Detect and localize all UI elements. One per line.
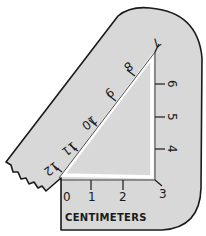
- ruler-triangle-diagram: 0 1 2 3 4 5 6 7 8 9 10 11 12 CENTIMETERS: [0, 0, 206, 236]
- tick-label-3: 3: [159, 187, 167, 201]
- tick-label-0: 0: [63, 190, 71, 204]
- tick-label-1: 1: [88, 190, 96, 204]
- units-caption: CENTIMETERS: [65, 212, 147, 223]
- tick-label-4: 4: [165, 145, 179, 153]
- diagram-canvas: 0 1 2 3 4 5 6 7 8 9 10 11 12 CENTIMETERS: [0, 0, 206, 236]
- tick-label-5: 5: [165, 113, 179, 121]
- tick-label-6: 6: [165, 80, 179, 88]
- tick-label-2: 2: [119, 190, 127, 204]
